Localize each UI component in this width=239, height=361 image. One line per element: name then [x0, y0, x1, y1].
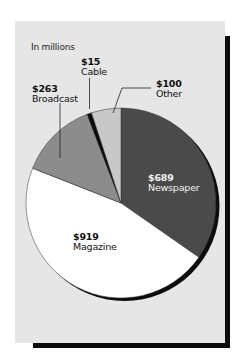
label-cable: $15 Cable	[81, 57, 107, 77]
label-magazine: $919 Magazine	[73, 232, 117, 252]
label-cable-name: Cable	[81, 67, 107, 77]
label-newspaper: $689 Newspaper	[148, 173, 200, 193]
label-other-name: Other	[156, 89, 182, 99]
label-other: $100 Other	[156, 79, 182, 99]
label-newspaper-name: Newspaper	[148, 183, 200, 193]
label-broadcast: $263 Broadcast	[32, 84, 78, 104]
pie-chart	[0, 0, 239, 361]
pie-slices	[26, 108, 216, 298]
label-magazine-name: Magazine	[73, 242, 117, 252]
label-broadcast-name: Broadcast	[32, 94, 78, 104]
